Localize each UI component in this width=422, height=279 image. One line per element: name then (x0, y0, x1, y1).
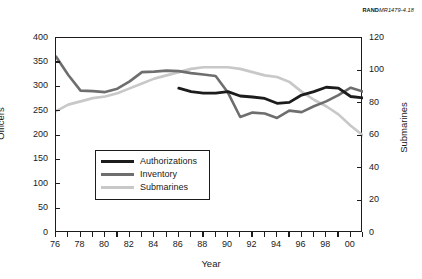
x-axis-tick-label: 96 (288, 240, 314, 249)
y-axis-left-tick-label: 150 (8, 154, 48, 163)
x-axis-tick-mark (190, 232, 191, 237)
y-axis-right-tick-label: 120 (369, 33, 409, 42)
x-axis-tick-mark (301, 232, 302, 237)
y-axis-right-tick-mark (357, 167, 362, 168)
x-axis-tick-mark (80, 232, 81, 237)
legend-label: Submarines (140, 183, 188, 192)
y-axis-left-tick-label: 350 (8, 57, 48, 66)
x-axis-tick-mark (337, 232, 338, 237)
x-axis-tick-label: 76 (42, 240, 68, 249)
rand-document-number: MR1479-4.18 (379, 7, 414, 13)
chart-legend: AuthorizationsInventorySubmarines (95, 150, 210, 200)
legend-swatch-submarines (101, 186, 134, 189)
x-axis-tick-mark (153, 232, 154, 237)
y-axis-right-tick-label: 40 (369, 163, 409, 172)
legend-swatch-authorizations (101, 160, 134, 163)
x-axis-tick-label: 88 (189, 240, 215, 249)
y-axis-right-tick-label: 100 (369, 65, 409, 74)
y-axis-right-tick-mark (357, 135, 362, 136)
y-axis-right-title: Submarines (398, 102, 409, 153)
legend-label: Authorizations (140, 157, 197, 166)
y-axis-right-tick-label: 0 (369, 228, 409, 237)
legend-label: Inventory (140, 170, 177, 179)
x-axis-tick-mark (202, 232, 203, 237)
y-axis-left-tick-mark (55, 135, 60, 136)
y-axis-left-tick-label: 200 (8, 130, 48, 139)
legend-item-submarines: Submarines (101, 181, 204, 194)
y-axis-right-tick-mark (357, 70, 362, 71)
legend-swatch-inventory (101, 173, 134, 176)
x-axis-tick-mark (362, 232, 363, 237)
chart-lines (56, 38, 363, 233)
y-axis-left-tick-label: 300 (8, 81, 48, 90)
y-axis-left-tick-mark (55, 159, 60, 160)
y-axis-left-tick-label: 50 (8, 203, 48, 212)
x-axis-tick-label: 82 (116, 240, 142, 249)
y-axis-right-tick-label: 60 (369, 130, 409, 139)
figure-container: RANDMR1479-4.18 Officers Submarines Year… (0, 0, 422, 279)
series-line-inventory (56, 57, 363, 118)
y-axis-left-tick-mark (55, 183, 60, 184)
y-axis-right-tick-label: 80 (369, 98, 409, 107)
x-axis-tick-mark (239, 232, 240, 237)
x-axis-tick-mark (141, 232, 142, 237)
x-axis-tick-label: 94 (263, 240, 289, 249)
y-axis-left-title: Officers (0, 107, 6, 140)
legend-item-inventory: Inventory (101, 168, 204, 181)
y-axis-right-tick-label: 20 (369, 195, 409, 204)
y-axis-left-tick-mark (55, 110, 60, 111)
x-axis-tick-mark (166, 232, 167, 237)
rand-document-credit: RANDMR1479-4.18 (362, 7, 414, 13)
x-axis-tick-mark (92, 232, 93, 237)
x-axis-tick-mark (67, 232, 68, 237)
x-axis-tick-label: 98 (312, 240, 338, 249)
y-axis-left-tick-mark (55, 61, 60, 62)
y-axis-left-tick-label: 0 (8, 228, 48, 237)
y-axis-left-tick-label: 100 (8, 179, 48, 188)
x-axis-tick-label: 84 (140, 240, 166, 249)
x-axis-tick-label: 90 (214, 240, 240, 249)
x-axis-tick-mark (313, 232, 314, 237)
x-axis-tick-label: 86 (165, 240, 191, 249)
y-axis-right-tick-mark (357, 200, 362, 201)
x-axis-tick-mark (264, 232, 265, 237)
x-axis-title: Year (0, 258, 422, 269)
x-axis-tick-mark (129, 232, 130, 237)
series-line-submarines (56, 67, 363, 135)
x-axis-tick-mark (276, 232, 277, 237)
x-axis-tick-mark (178, 232, 179, 237)
x-axis-tick-mark (104, 232, 105, 237)
x-axis-tick-label: 80 (91, 240, 117, 249)
x-axis-tick-label: 00 (337, 240, 363, 249)
rand-brand-label: RAND (362, 7, 379, 13)
x-axis-tick-mark (227, 232, 228, 237)
x-axis-tick-mark (215, 232, 216, 237)
y-axis-right-tick-mark (357, 102, 362, 103)
x-axis-tick-mark (325, 232, 326, 237)
legend-item-authorizations: Authorizations (101, 155, 204, 168)
x-axis-tick-label: 92 (238, 240, 264, 249)
x-axis-tick-mark (55, 232, 56, 237)
y-axis-left-tick-label: 250 (8, 106, 48, 115)
y-axis-left-tick-label: 400 (8, 33, 48, 42)
y-axis-left-tick-mark (55, 86, 60, 87)
x-axis-tick-mark (288, 232, 289, 237)
x-axis-tick-label: 78 (67, 240, 93, 249)
x-axis-tick-mark (251, 232, 252, 237)
y-axis-left-tick-mark (55, 208, 60, 209)
x-axis-tick-mark (116, 232, 117, 237)
plot-area (55, 37, 362, 232)
x-axis-tick-mark (350, 232, 351, 237)
